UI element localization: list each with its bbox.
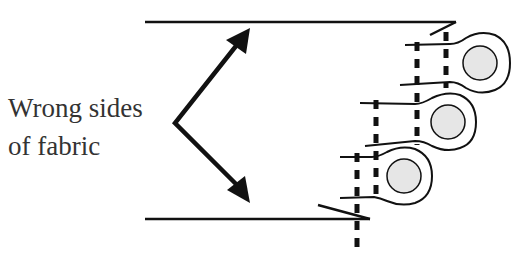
top-fabric-layer bbox=[145, 22, 456, 35]
piping-loop-3 bbox=[340, 148, 432, 205]
cord-1 bbox=[463, 46, 497, 80]
cord-3 bbox=[387, 159, 421, 193]
pointer-arrows bbox=[175, 28, 250, 203]
arrow-up-head-icon bbox=[226, 28, 250, 54]
bottom-fabric-layer bbox=[145, 205, 370, 219]
cord-2 bbox=[431, 105, 465, 139]
stitch-lines bbox=[357, 32, 446, 255]
